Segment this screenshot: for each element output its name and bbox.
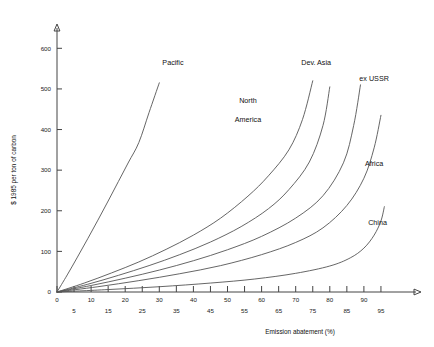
series-label-north: North — [239, 96, 257, 105]
y-axis-ticks: 0100200300400500600 — [41, 45, 62, 296]
series-label-pacific: Pacific — [162, 58, 184, 67]
x-tick-label-major: 10 — [88, 296, 95, 303]
x-tick-label-minor: 5 — [72, 307, 76, 314]
x-tick-label-major: 60 — [258, 296, 265, 303]
series-label-africa: Africa — [365, 159, 383, 168]
x-tick-label-major: 80 — [326, 296, 333, 303]
x-tick-label-minor: 45 — [207, 307, 214, 314]
data-curves — [57, 81, 384, 292]
y-tick-label: 600 — [41, 45, 52, 52]
x-tick-label-minor: 85 — [343, 307, 350, 314]
series-label-china: China — [368, 218, 387, 227]
x-tick-label-minor: 15 — [105, 307, 112, 314]
x-tick-label-minor: 25 — [139, 307, 146, 314]
curve-pacific — [57, 83, 159, 292]
series-label-dev-asia: Dev. Asia — [301, 58, 331, 67]
x-tick-label-major: 0 — [55, 296, 59, 303]
x-tick-label-minor: 35 — [173, 307, 180, 314]
chart-canvas: 0100200300400500600 01020304050607080905… — [0, 0, 434, 347]
x-axis-title: Emission abatement (%) — [265, 328, 335, 336]
y-axis-title: $ 1985 per ton of carbon — [10, 135, 18, 205]
x-tick-label-minor: 55 — [241, 307, 248, 314]
x-tick-label-minor: 65 — [275, 307, 282, 314]
y-tick-label: 300 — [41, 166, 52, 173]
x-axis-ticks: 01020304050607080905152535455565758595 — [55, 286, 385, 314]
series-labels: PacificNorthAmericaDev. Asiaex USSRAfric… — [162, 58, 389, 227]
x-tick-label-major: 30 — [156, 296, 163, 303]
y-tick-label: 0 — [48, 288, 52, 295]
y-tick-label: 200 — [41, 207, 52, 214]
emission-abatement-cost-chart: 0100200300400500600 01020304050607080905… — [0, 0, 434, 347]
series-label-america: America — [235, 115, 261, 124]
x-tick-label-minor: 75 — [309, 307, 316, 314]
y-tick-label: 400 — [41, 126, 52, 133]
y-tick-label: 100 — [41, 248, 52, 255]
x-tick-label-major: 50 — [224, 296, 231, 303]
series-label-ex-ussr: ex USSR — [359, 74, 389, 83]
curve-north-america — [57, 81, 313, 292]
x-tick-label-major: 20 — [122, 296, 129, 303]
curve-ex-ussr — [57, 85, 360, 292]
y-tick-label: 500 — [41, 85, 52, 92]
x-tick-label-minor: 95 — [378, 307, 385, 314]
curve-dev-asia — [57, 87, 330, 292]
x-tick-label-major: 90 — [360, 296, 367, 303]
x-tick-label-major: 40 — [190, 296, 197, 303]
x-tick-label-major: 70 — [292, 296, 299, 303]
